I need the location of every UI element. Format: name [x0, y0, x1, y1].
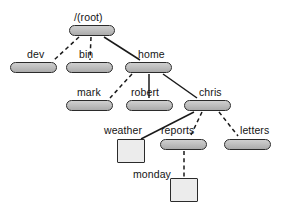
node-letters[interactable] [224, 139, 271, 150]
node-dev[interactable] [10, 62, 57, 73]
node-weather[interactable] [117, 139, 145, 163]
node-root[interactable] [69, 25, 115, 36]
node-robert[interactable] [126, 100, 173, 111]
node-label-root: /(root) [74, 12, 103, 23]
node-label-monday: monday [133, 169, 171, 180]
node-label-dev: dev [27, 49, 44, 60]
node-label-weather: weather [104, 125, 142, 136]
node-mark[interactable] [66, 100, 113, 111]
node-monday[interactable] [170, 178, 198, 202]
node-bin[interactable] [66, 62, 113, 73]
node-label-bin: bin [79, 49, 93, 60]
node-reports[interactable] [160, 139, 207, 150]
edge-root-home [104, 37, 140, 60]
node-label-home: home [138, 49, 165, 60]
node-label-robert: robert [131, 87, 159, 98]
edge-home-mark [110, 74, 132, 98]
node-label-reports: reports [161, 125, 194, 136]
node-chris[interactable] [184, 100, 231, 111]
node-home[interactable] [125, 62, 172, 73]
node-label-letters: letters [240, 125, 269, 136]
edge-home-chris [163, 74, 197, 98]
edge-chris-letters [219, 112, 238, 136]
node-label-mark: mark [77, 87, 101, 98]
node-label-chris: chris [199, 87, 222, 98]
filesystem-tree-diagram: /(root)devbinhomemarkrobertchrisweatherr… [0, 0, 284, 213]
edge-root-dev [54, 37, 79, 60]
